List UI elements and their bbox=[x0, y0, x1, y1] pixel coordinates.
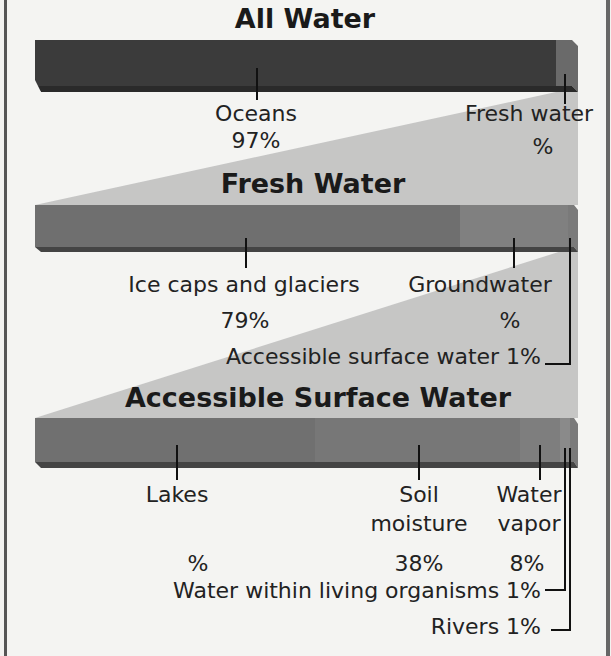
label-fresh-water-name: Fresh water bbox=[465, 101, 593, 127]
label-ice-caps-value: 79% bbox=[221, 308, 270, 334]
bar-fresh-water bbox=[35, 205, 578, 252]
label-groundwater-value: % bbox=[500, 308, 521, 334]
label-oceans-name: Oceans bbox=[215, 101, 297, 127]
bar-accessible-surface-water bbox=[35, 418, 578, 468]
label-groundwater-name: Groundwater bbox=[408, 272, 552, 298]
label-soil-value: 38% bbox=[395, 551, 444, 577]
label-rivers: Rivers 1% bbox=[431, 614, 541, 640]
label-soil-name-1: Soil bbox=[399, 482, 439, 508]
title-all-water: All Water bbox=[235, 3, 375, 35]
leader-rivers bbox=[551, 448, 570, 630]
label-lakes-name: Lakes bbox=[146, 482, 209, 508]
label-living-organisms: Water within living organisms 1% bbox=[173, 578, 541, 604]
label-vapor-name-1: Water bbox=[496, 482, 561, 508]
title-accessible-surface-water: Accessible Surface Water bbox=[125, 382, 511, 414]
label-ice-caps-name: Ice caps and glaciers bbox=[128, 272, 359, 298]
title-fresh-water: Fresh Water bbox=[221, 168, 406, 200]
label-lakes-value: % bbox=[188, 551, 209, 577]
label-vapor-name-2: vapor bbox=[498, 511, 561, 537]
label-oceans-value: 97% bbox=[232, 128, 281, 154]
bar-all-water bbox=[35, 40, 578, 92]
label-fresh-water-value: % bbox=[533, 134, 554, 160]
label-soil-name-2: moisture bbox=[370, 511, 467, 537]
label-vapor-value: 8% bbox=[510, 551, 545, 577]
label-accessible-surface-water: Accessible surface water 1% bbox=[226, 344, 541, 370]
